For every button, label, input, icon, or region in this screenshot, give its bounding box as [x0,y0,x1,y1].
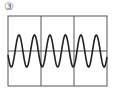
oscilloscope-screen [0,0,117,90]
